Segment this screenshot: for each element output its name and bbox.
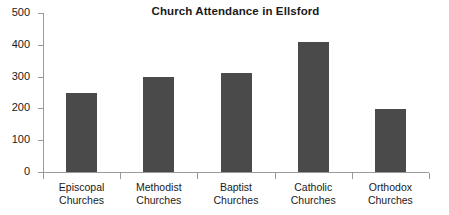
bar [66,93,97,173]
x-axis-category-label: BaptistChurches [197,181,275,207]
x-tick-mark [429,173,430,179]
y-tick-label: 100 [0,133,30,145]
x-tick-mark [197,173,198,179]
x-axis-category-label: OrthodoxChurches [351,181,429,207]
y-tick-label: 0 [0,165,30,177]
x-axis-category-label: MethodistChurches [120,181,198,207]
x-tick-mark [43,173,44,179]
bar [143,77,174,172]
bar-chart: Church Attendance in Ellsford 0100200300… [0,0,449,215]
bar [221,73,252,172]
x-tick-mark [275,173,276,179]
x-tick-mark [352,173,353,179]
y-tick-label: 300 [0,70,30,82]
category-label-line: Churches [120,194,198,207]
category-label-line: Episcopal [43,181,121,194]
category-label-line: Churches [351,194,429,207]
x-axis-category-label: CatholicChurches [274,181,352,207]
bar [375,109,406,172]
category-label-line: Baptist [197,181,275,194]
category-label-line: Methodist [120,181,198,194]
y-tick-label: 500 [0,6,30,18]
x-axis-category-label: EpiscopalChurches [43,181,121,207]
category-label-line: Orthodox [351,181,429,194]
plot-area [44,13,428,172]
bar [298,42,329,172]
y-tick-label: 400 [0,38,30,50]
x-axis-line [43,172,429,173]
category-label-line: Churches [43,194,121,207]
category-label-line: Churches [274,194,352,207]
category-label-line: Churches [197,194,275,207]
x-tick-mark [120,173,121,179]
category-label-line: Catholic [274,181,352,194]
y-tick-label: 200 [0,101,30,113]
